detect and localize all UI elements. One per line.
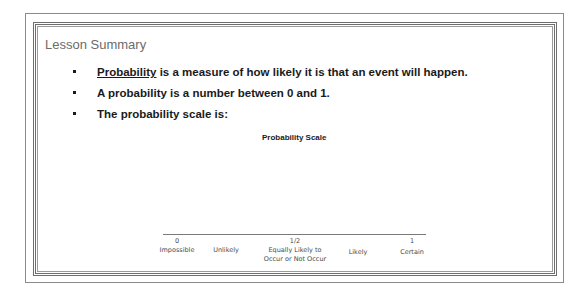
- category-unlikely: Unlikely: [213, 246, 239, 255]
- bullet-square-icon: [73, 70, 76, 73]
- category-equally-likely: Equally Likely to Occur or Not Occur: [264, 246, 326, 264]
- tick-label-one: 1: [410, 237, 414, 245]
- term-probability: Probability: [97, 66, 156, 78]
- category-label-line2: Occur or Not Occur: [264, 255, 326, 263]
- definition-text: is a measure of how likely it is that an…: [156, 66, 467, 78]
- bullet-square-icon: [73, 112, 76, 115]
- probability-scale-axis: [163, 234, 426, 235]
- category-label: Unlikely: [213, 246, 239, 254]
- probability-scale-title: Probability Scale: [262, 133, 326, 142]
- category-likely: Likely: [349, 248, 368, 257]
- lesson-summary-title: Lesson Summary: [45, 37, 146, 52]
- category-label: Likely: [349, 248, 368, 256]
- category-certain: Certain: [400, 248, 424, 257]
- bullet-text: The probability scale is:: [97, 107, 228, 121]
- bullet-text: A probability is a number between 0 and …: [97, 86, 330, 100]
- bullet-square-icon: [73, 91, 76, 94]
- tick-label-half: 1/2: [290, 237, 300, 245]
- category-label-line1: Equally Likely to: [268, 246, 321, 254]
- category-label: Impossible: [160, 246, 195, 254]
- tick-label-zero: 0: [175, 237, 179, 245]
- category-impossible: Impossible: [160, 246, 195, 255]
- inner-border-line: [37, 26, 553, 272]
- bullet-text: Probability is a measure of how likely i…: [97, 65, 468, 79]
- category-label: Certain: [400, 248, 424, 256]
